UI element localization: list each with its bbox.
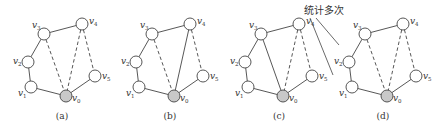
dashed-edge-v4-v5 — [83, 30, 93, 70]
node-v1 — [242, 81, 254, 93]
node-v2 — [343, 56, 355, 68]
solid-edge-v3-v4 — [158, 26, 184, 33]
node-v5 — [306, 70, 318, 82]
node-v4 — [397, 18, 409, 30]
node-label-v0: v0 — [180, 93, 189, 104]
node-v2 — [22, 56, 34, 68]
panel-c: v0v1v2v3v4v5(c) — [230, 16, 328, 121]
node-label-v4: v4 — [89, 16, 98, 27]
panel-d: v0v1v2v3v4v5(d) — [334, 16, 432, 121]
node-label-v5: v5 — [319, 71, 328, 82]
node-v4 — [184, 18, 196, 30]
graph-figure: v0v1v2v3v4v5(a)v0v1v2v3v4v5(b)v0v1v2v3v4… — [0, 0, 439, 127]
node-label-v2: v2 — [121, 56, 130, 67]
dashed-edge-v4-v5 — [191, 30, 201, 70]
dashed-edge-v4-v0 — [388, 30, 401, 90]
node-v5 — [410, 70, 422, 82]
node-v1 — [346, 81, 358, 93]
solid-edge-v3-v4 — [371, 26, 397, 33]
solid-edge-v0-v5 — [71, 79, 90, 92]
node-v0 — [168, 90, 180, 102]
dashed-edge-v4-v5 — [404, 30, 414, 70]
solid-edge-v1-v0 — [37, 88, 60, 94]
annotation-pointer-1 — [310, 18, 333, 75]
node-label-v4: v4 — [197, 16, 206, 27]
node-v0 — [277, 90, 289, 102]
node-label-v2: v2 — [230, 56, 239, 67]
dashed-edge-v4-v5 — [300, 30, 310, 70]
node-label-v4: v4 — [410, 16, 419, 27]
solid-edge-v4-v0 — [175, 30, 188, 90]
panel-caption-a: (a) — [56, 111, 68, 121]
panel-caption-d: (d) — [377, 111, 390, 121]
node-v4 — [293, 18, 305, 30]
node-label-v3: v3 — [32, 20, 41, 31]
solid-edge-v3-v2 — [248, 39, 258, 57]
node-v4 — [76, 18, 88, 30]
node-v0 — [381, 90, 393, 102]
node-label-v0: v0 — [393, 93, 402, 104]
solid-edge-v1-v0 — [358, 88, 381, 94]
node-v0 — [60, 90, 72, 102]
node-label-v3: v3 — [249, 20, 258, 31]
node-v1 — [133, 81, 145, 93]
solid-edge-v0-v5 — [179, 79, 198, 92]
node-v2 — [130, 56, 142, 68]
panel-b: v0v1v2v3v4v5(b) — [121, 16, 219, 121]
node-label-v2: v2 — [13, 56, 22, 67]
solid-edge-v3-v2 — [352, 39, 362, 57]
dashed-edge-v3-v0 — [154, 40, 172, 91]
node-v5 — [89, 70, 101, 82]
node-label-v5: v5 — [423, 71, 432, 82]
solid-edge-v3-v0 — [263, 40, 281, 91]
solid-edge-v3-v2 — [31, 39, 41, 57]
solid-edge-v2-v1 — [246, 68, 248, 81]
annotation-label: 统计多次 — [304, 4, 344, 16]
solid-edge-v2-v1 — [29, 68, 31, 81]
panel-caption-c: (c) — [273, 111, 285, 121]
dashed-edge-v3-v0 — [46, 40, 64, 91]
panel-caption-b: (b) — [164, 111, 177, 121]
node-v5 — [197, 70, 209, 82]
node-label-v0: v0 — [72, 93, 81, 104]
node-label-v5: v5 — [102, 71, 111, 82]
node-label-v2: v2 — [334, 56, 343, 67]
node-v1 — [25, 81, 37, 93]
node-label-v3: v3 — [353, 20, 362, 31]
node-v2 — [239, 56, 251, 68]
node-label-v5: v5 — [210, 71, 219, 82]
dashed-edge-v4-v0 — [284, 30, 297, 90]
node-label-v0: v0 — [289, 93, 298, 104]
solid-edge-v3-v2 — [139, 39, 149, 57]
solid-edge-v2-v1 — [350, 68, 352, 81]
node-label-v3: v3 — [140, 20, 149, 31]
panel-a: v0v1v2v3v4v5(a) — [13, 16, 111, 121]
dashed-edge-v3-v0 — [367, 40, 385, 91]
solid-edge-v1-v0 — [254, 88, 277, 94]
solid-edge-v0-v5 — [392, 79, 411, 92]
solid-edge-v3-v4 — [267, 26, 293, 33]
node-label-v4: v4 — [306, 16, 315, 27]
solid-edge-v2-v1 — [137, 68, 139, 81]
solid-edge-v3-v4 — [50, 26, 76, 33]
dashed-edge-v4-v0 — [67, 30, 80, 90]
solid-edge-v0-v5 — [288, 79, 307, 92]
solid-edge-v1-v0 — [145, 88, 168, 94]
